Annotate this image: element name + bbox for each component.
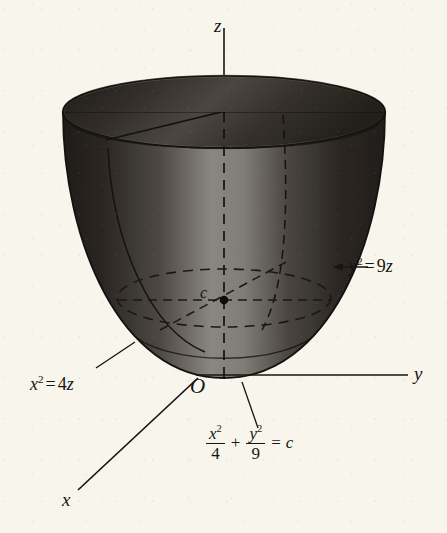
level-curve-leader [242, 382, 258, 428]
trace-yz-base: y [349, 256, 357, 276]
trace-yz-label: y2=9z [349, 256, 393, 275]
figure-canvas: z y x O c y2=9z x2=4z x2 4 + y2 9 = [0, 0, 447, 533]
level-curve-den1: 4 [211, 444, 220, 462]
level-curve-num1: x [209, 424, 217, 443]
trace-yz-coefficient: 9 [377, 256, 386, 276]
trace-xz-variable: z [67, 374, 74, 394]
level-curve-plus: + [226, 434, 246, 451]
trace-xz-coefficient: 4 [58, 374, 67, 394]
trace-yz-variable: z [386, 256, 393, 276]
level-curve-num2-exp: 2 [257, 423, 262, 434]
trace-yz-exponent: 2 [357, 255, 363, 267]
x-axis-line [78, 378, 198, 490]
trace-yz-equals: = [363, 256, 377, 276]
trace-xz-base: x [30, 374, 38, 394]
trace-xz-leader [96, 342, 135, 368]
level-point-label: c [200, 285, 207, 301]
trace-xz-exponent: 2 [38, 373, 44, 385]
level-curve-num2: y [249, 424, 257, 443]
y-axis-label: y [414, 364, 422, 383]
origin-label: O [190, 376, 205, 397]
level-curve-rhs: c [286, 434, 294, 451]
level-curve-num1-exp: 2 [217, 423, 222, 434]
level-curve-fraction-y: y2 9 [246, 424, 265, 462]
level-curve-den2: 9 [252, 444, 261, 462]
trace-xz-label: x2=4z [30, 374, 74, 393]
x-axis-label: x [62, 490, 70, 509]
level-curve-label: x2 4 + y2 9 = c [205, 424, 293, 462]
z-axis-label: z [214, 16, 221, 35]
level-curve-equals: = [266, 434, 286, 451]
level-point-marker [220, 296, 229, 305]
level-curve-fraction-x: x2 4 [206, 424, 225, 462]
trace-xz-equals: = [44, 374, 58, 394]
